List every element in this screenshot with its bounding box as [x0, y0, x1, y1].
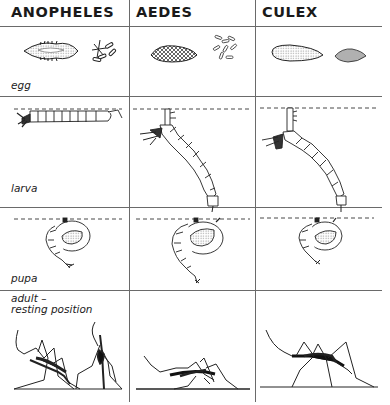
anopheles-adult-angled-icon: [14, 330, 122, 389]
aedes-pupa-icon: [172, 218, 223, 283]
aedes-egg-icon: [151, 46, 197, 62]
illustrations: [0, 0, 390, 405]
anopheles-larva-icon: [17, 110, 122, 127]
water-surface-larva: [14, 108, 378, 109]
culex-adult-icon: [260, 330, 378, 387]
anopheles-pupa-icon: [46, 218, 90, 268]
anopheles-adult-upright-icon: [76, 322, 122, 389]
aedes-adult-icon: [136, 356, 250, 389]
culex-egg-raft-icon: [335, 49, 366, 62]
culex-egg-icon: [272, 45, 323, 61]
anopheles-egg-icon: [24, 41, 78, 61]
anopheles-egg-raft-icon: [92, 40, 116, 62]
aedes-larva-icon: [140, 109, 218, 212]
culex-larva-icon: [262, 108, 346, 212]
aedes-egg-scatter-icon: [213, 35, 237, 59]
culex-pupa-icon: [299, 218, 342, 264]
